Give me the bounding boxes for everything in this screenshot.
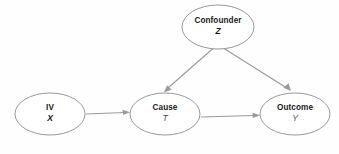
edge-cause-to-outcome-line <box>201 116 254 118</box>
node-cause-shape[interactable] <box>130 93 200 135</box>
edge-confounder-to-outcome-arrowhead <box>283 83 291 91</box>
causal-diagram: IV X Cause T Outcome Y Confounder Z <box>0 0 339 154</box>
edge-confounder-to-cause-line <box>168 49 213 89</box>
edge-cause-to-outcome-arrowhead <box>252 113 260 118</box>
edge-iv-to-cause <box>86 110 130 115</box>
edge-confounder-to-cause <box>164 49 213 93</box>
node-outcome-shape[interactable] <box>260 93 330 135</box>
node-confounder-shape[interactable] <box>182 5 254 49</box>
edge-iv-to-cause-arrowhead <box>123 110 130 115</box>
edge-confounder-to-outcome <box>224 49 291 92</box>
diagram-canvas <box>0 0 339 154</box>
edge-cause-to-outcome <box>201 113 260 118</box>
node-iv-shape[interactable] <box>15 93 85 135</box>
edge-iv-to-cause-line <box>86 113 125 115</box>
edge-confounder-to-outcome-line <box>224 49 286 88</box>
